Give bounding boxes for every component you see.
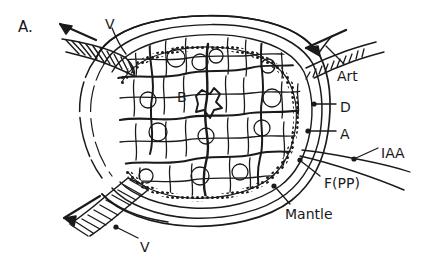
cross-section-drawing (0, 0, 435, 262)
label-d-layer: D (340, 100, 351, 114)
label-mantle: Mantle (285, 207, 333, 221)
label-f-pp: F(PP) (324, 176, 360, 190)
figure-root: A. V Art D A IAA F(PP) Mantle V B (0, 0, 435, 262)
label-vein-top: V (105, 17, 115, 31)
label-artery: Art (337, 69, 358, 83)
label-vein-bottom: V (140, 240, 150, 254)
label-interior-b: B (177, 90, 187, 104)
panel-label: A. (18, 20, 33, 35)
label-a-layer: A (340, 127, 350, 141)
label-iaa: IAA (381, 146, 405, 160)
